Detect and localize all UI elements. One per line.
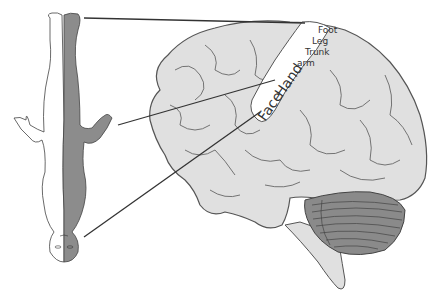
homunculus-shaded-half [63, 13, 112, 262]
homunculus-white-half [14, 13, 64, 262]
label-foot: Foot [318, 25, 338, 35]
label-leg: Leg [312, 36, 328, 46]
label-trunk: Trunk [304, 47, 330, 57]
brain-homunculus-diagram: Foot Leg Trunk arm Hand Face [0, 0, 442, 294]
